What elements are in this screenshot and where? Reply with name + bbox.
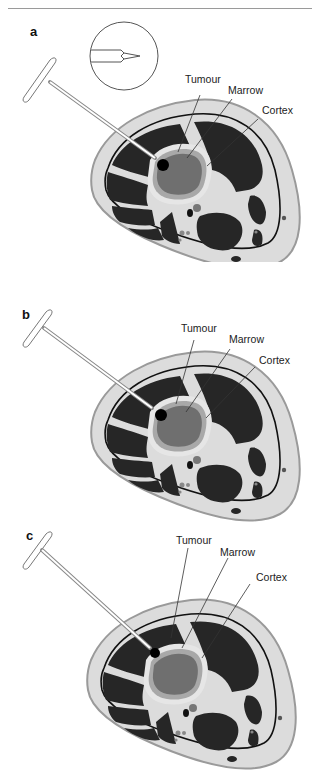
cortex-label: Cortex xyxy=(262,104,293,116)
panel-a: a Tumour Marrow Cortex xyxy=(0,0,312,262)
tumour-label: Tumour xyxy=(176,534,212,546)
panel-letter: a xyxy=(30,24,37,39)
panel-letter: c xyxy=(26,528,33,543)
limb-cross-section-diagram xyxy=(0,524,312,784)
panel-letter: b xyxy=(22,307,30,322)
biopsy-needle-icon xyxy=(23,532,160,658)
marrow-label: Marrow xyxy=(229,333,264,345)
panel-c: c Tumour Marrow Cortex xyxy=(0,524,312,784)
marrow-label: Marrow xyxy=(220,546,255,558)
limb-cross-section-diagram xyxy=(0,262,312,524)
cortex-label: Cortex xyxy=(256,571,287,583)
cortex-label: Cortex xyxy=(259,354,290,366)
needle-tip-inset-icon xyxy=(90,22,158,90)
tumour-label: Tumour xyxy=(185,73,221,85)
marrow-label: Marrow xyxy=(228,84,263,96)
panel-b: b Tumour Marrow Cortex xyxy=(0,262,312,524)
tumour-label: Tumour xyxy=(181,322,217,334)
limb-cross-section-diagram xyxy=(0,0,312,262)
